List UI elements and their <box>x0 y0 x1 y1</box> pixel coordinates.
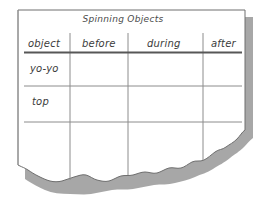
paper-sheet <box>0 0 258 209</box>
worksheet-screenshot: Spinning Objects object before during af… <box>0 0 258 209</box>
